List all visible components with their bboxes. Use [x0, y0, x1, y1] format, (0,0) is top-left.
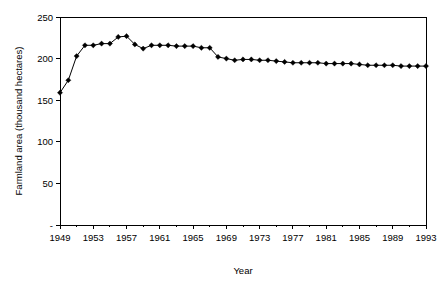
data-point — [240, 57, 245, 62]
data-point — [265, 58, 270, 63]
data-point — [349, 61, 354, 66]
data-point — [157, 43, 162, 48]
data-point — [398, 63, 403, 68]
x-tick-label: 1985 — [349, 232, 370, 243]
data-point — [257, 58, 262, 63]
data-point — [224, 56, 229, 61]
x-tick-labels: 1949195319571961196519691973197719811985… — [49, 232, 436, 243]
data-point — [423, 63, 428, 68]
x-tick-label: 1981 — [316, 232, 337, 243]
data-point — [290, 60, 295, 65]
data-point — [174, 44, 179, 49]
y-tick-label: 250 — [37, 12, 53, 23]
x-tick-label: 1953 — [83, 232, 104, 243]
y-tick-label: 200 — [37, 53, 53, 64]
x-tick-label: 1949 — [49, 232, 70, 243]
y-tick-marks — [56, 17, 60, 225]
data-point — [57, 90, 62, 95]
data-point — [232, 58, 237, 63]
x-tick-label: 1973 — [249, 232, 270, 243]
data-point — [407, 63, 412, 68]
data-point — [249, 57, 254, 62]
y-tick-label: 50 — [42, 178, 53, 189]
data-point — [99, 41, 104, 46]
x-tick-label: 1961 — [149, 232, 170, 243]
y-tick-label: 100 — [37, 136, 53, 147]
x-tick-label: 1969 — [216, 232, 237, 243]
data-point — [357, 62, 362, 67]
figure-container: -50100150200250 194919531957196119651969… — [0, 0, 442, 282]
data-point — [324, 61, 329, 66]
line-chart: -50100150200250 194919531957196119651969… — [0, 0, 442, 282]
data-point — [66, 78, 71, 83]
data-point — [315, 60, 320, 65]
x-tick-label: 1989 — [382, 232, 403, 243]
data-point — [149, 43, 154, 48]
y-tick-label: - — [50, 220, 53, 231]
data-point — [166, 43, 171, 48]
data-point — [390, 63, 395, 68]
data-point — [365, 63, 370, 68]
data-point — [332, 61, 337, 66]
data-point — [182, 44, 187, 49]
data-point — [274, 59, 279, 64]
x-tick-label: 1977 — [282, 232, 303, 243]
data-point — [190, 44, 195, 49]
data-point — [382, 63, 387, 68]
series-markers-farmland-area — [57, 34, 428, 96]
data-point — [91, 43, 96, 48]
x-axis-title: Year — [233, 265, 252, 276]
x-tick-label: 1993 — [415, 232, 436, 243]
x-tick-label: 1965 — [183, 232, 204, 243]
data-point — [340, 61, 345, 66]
y-tick-labels: -50100150200250 — [37, 12, 53, 231]
data-point — [282, 59, 287, 64]
plot-frame — [60, 17, 426, 225]
y-axis-title: Farmland area (thousand hectares) — [13, 47, 24, 196]
data-point — [199, 45, 204, 50]
x-tick-label: 1957 — [116, 232, 137, 243]
data-point — [307, 60, 312, 65]
series-line-farmland-area — [60, 36, 426, 93]
data-point — [373, 63, 378, 68]
data-point — [141, 46, 146, 51]
data-point — [299, 60, 304, 65]
data-point — [415, 63, 420, 68]
y-tick-label: 150 — [37, 95, 53, 106]
